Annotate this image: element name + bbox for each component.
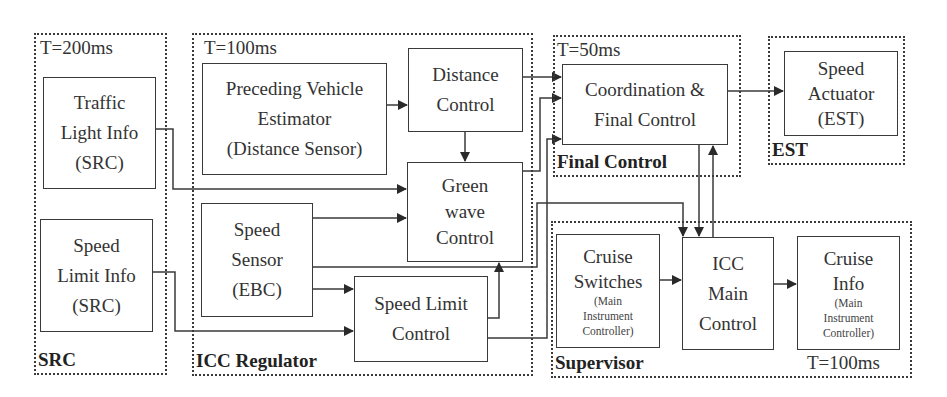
block-text: Speed	[73, 231, 119, 261]
block-text: Info	[833, 271, 865, 296]
block-speed-limit-control: Speed Limit Control	[354, 276, 488, 362]
block-text: Main	[708, 279, 748, 309]
block-preceding-vehicle-estimator: Preceding Vehicle Estimator (Distance Se…	[202, 63, 387, 175]
block-text: Speed	[818, 56, 864, 81]
block-speed-limit-info: Speed Limit Info (SRC)	[40, 219, 153, 332]
block-text: ICC	[712, 249, 744, 279]
block-text: Control	[436, 225, 494, 251]
block-icc-main-control: ICC Main Control	[682, 237, 774, 350]
group-label: Supervisor	[555, 352, 644, 374]
block-text: Speed Limit	[374, 289, 467, 319]
block-text: Estimator	[258, 104, 332, 134]
block-speed-sensor: Speed Sensor (EBC)	[201, 203, 313, 317]
block-text: Distance	[432, 60, 498, 90]
group-label: ICC Regulator	[196, 350, 317, 372]
block-text: Control	[699, 309, 757, 339]
block-green-wave-control: Green wave Control	[407, 162, 523, 262]
block-text: wave	[445, 199, 485, 225]
block-cruise-switches: Cruise Switches (Main Instrument Control…	[556, 234, 660, 348]
block-text: Green	[442, 173, 488, 199]
period-label: T=100ms	[204, 37, 277, 59]
block-subtext: (Main	[594, 294, 622, 309]
block-text: Speed	[234, 215, 280, 245]
block-text: Cruise	[824, 246, 874, 271]
block-text: (EST)	[818, 106, 864, 131]
group-label: EST	[772, 139, 808, 161]
block-distance-control: Distance Control	[408, 48, 523, 132]
period-label: T=100ms	[807, 352, 880, 374]
block-subtext: Instrument	[583, 309, 633, 324]
period-label: T=200ms	[40, 37, 113, 59]
block-text: Control	[436, 90, 494, 120]
block-text: Light Info	[61, 118, 139, 148]
group-label: Final Control	[557, 151, 667, 173]
block-traffic-light-info: Traffic Light Info (SRC)	[43, 77, 156, 189]
block-text: Coordination &	[585, 75, 705, 105]
block-text: Final Control	[594, 105, 696, 135]
block-text: Control	[392, 319, 450, 349]
block-text: Sensor	[231, 245, 283, 275]
block-subtext: Instrument	[824, 311, 874, 326]
block-text: (SRC)	[75, 148, 124, 178]
block-text: Limit Info	[57, 261, 136, 291]
block-text: (EBC)	[232, 275, 282, 305]
block-subtext: Controller)	[582, 324, 633, 339]
block-cruise-info: Cruise Info (Main Instrument Controller)	[797, 236, 900, 350]
block-text: Traffic	[74, 88, 126, 118]
block-text: Actuator	[808, 81, 874, 106]
block-text: (Distance Sensor)	[227, 134, 363, 164]
group-label: SRC	[38, 349, 76, 371]
block-speed-actuator: Speed Actuator (EST)	[784, 51, 898, 136]
block-text: Switches	[574, 269, 643, 294]
block-coordination-final-control: Coordination & Final Control	[562, 64, 728, 145]
block-subtext: Controller)	[823, 326, 874, 341]
block-text: Preceding Vehicle	[226, 74, 363, 104]
period-label: T=50ms	[557, 39, 621, 61]
block-subtext: (Main	[834, 296, 862, 311]
block-text: (SRC)	[72, 291, 121, 321]
block-text: Cruise	[583, 244, 633, 269]
